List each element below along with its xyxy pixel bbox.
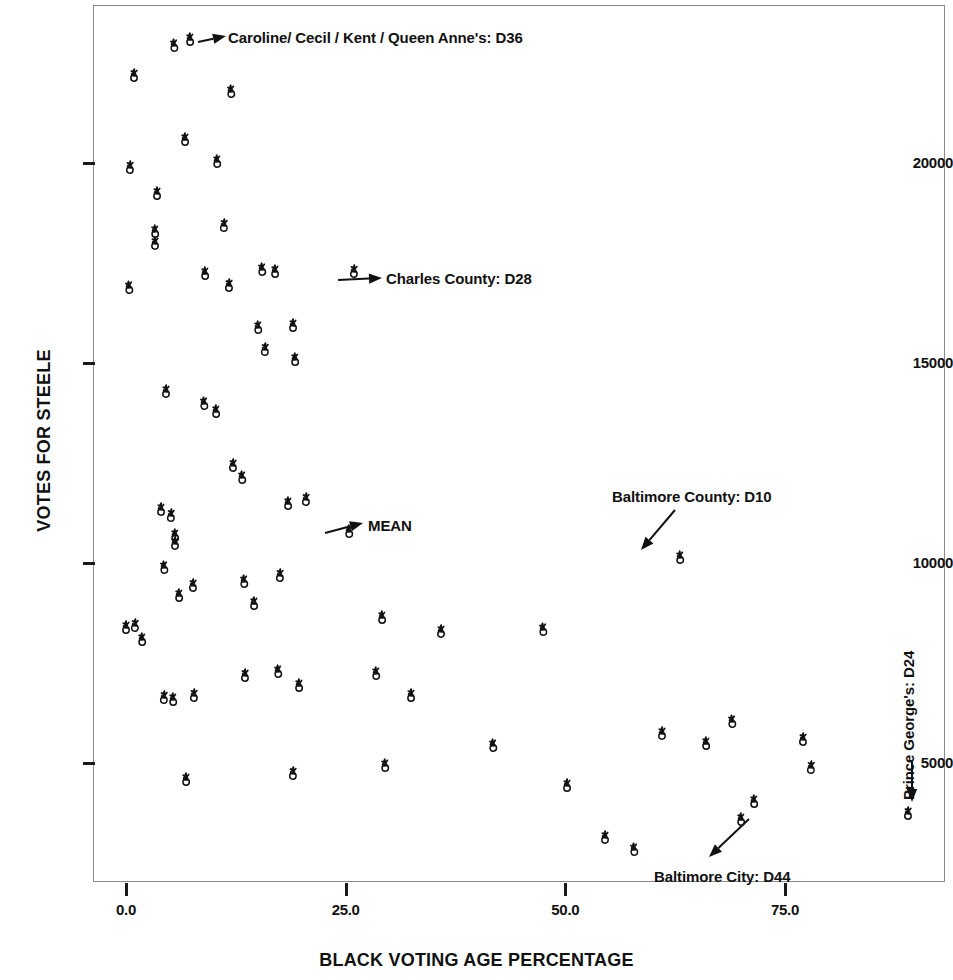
- annotation-label-charles-county: Charles County: D28: [386, 270, 532, 287]
- x-axis-title: BLACK VOTING AGE PERCENTAGE: [0, 950, 953, 971]
- y-tick-mark: [83, 562, 95, 565]
- annotation-label-caroline-cecil-kent-queen-annes: Caroline/ Cecil / Kent / Queen Anne's: D…: [228, 29, 523, 46]
- scatter-plot-figure: 5000100001500020000 0.025.050.075.0 VOTE…: [0, 0, 953, 980]
- x-tick-label: 50.0: [535, 901, 595, 918]
- plot-area-frame: [93, 5, 945, 882]
- x-tick-mark: [125, 883, 128, 896]
- x-tick-label: 75.0: [755, 901, 815, 918]
- y-tick-mark: [83, 762, 95, 765]
- annotation-label-baltimore-county: Baltimore County: D10: [612, 488, 772, 505]
- y-tick-label: 5000: [881, 754, 953, 771]
- y-tick-label: 20000: [881, 154, 953, 171]
- y-tick-label: 10000: [881, 554, 953, 571]
- annotation-label-baltimore-city: Baltimore City: D44: [654, 868, 790, 885]
- x-tick-mark: [345, 883, 348, 896]
- x-tick-label: 25.0: [316, 901, 376, 918]
- y-axis-title: VOTES FOR STEELE: [34, 321, 55, 561]
- y-tick-label: 15000: [881, 354, 953, 371]
- annotation-label-prince-georges: Prince George's: D24: [900, 651, 917, 800]
- x-tick-label: 0.0: [96, 901, 156, 918]
- y-tick-mark: [83, 362, 95, 365]
- x-tick-mark: [564, 883, 567, 896]
- y-tick-mark: [83, 162, 95, 165]
- annotation-label-mean: MEAN: [368, 517, 412, 534]
